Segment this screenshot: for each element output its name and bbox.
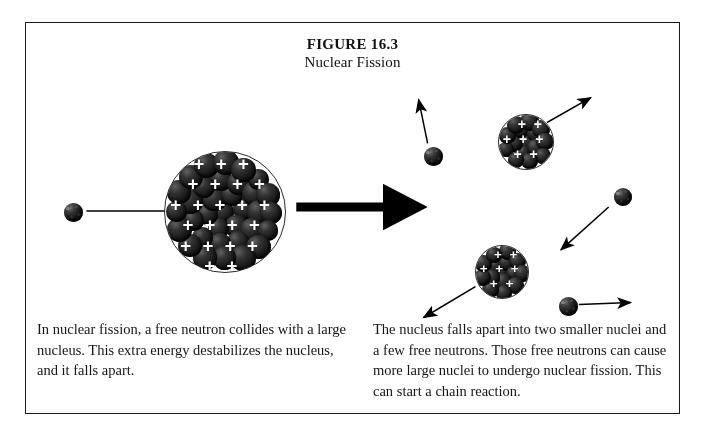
nucleon — [225, 215, 248, 238]
nucleon — [514, 265, 529, 282]
nucleon — [513, 122, 529, 138]
free-neutron-bottom-right — [559, 297, 578, 316]
proton-plus-mark: + — [532, 132, 546, 146]
lower-nucleus-motion-arrow — [424, 287, 476, 318]
figure-number: FIGURE 16.3 — [26, 35, 679, 53]
nucleon — [246, 235, 270, 259]
proton-plus-mark: + — [492, 262, 506, 276]
proton-plus-mark: + — [500, 132, 514, 146]
proton-plus-mark: + — [223, 257, 242, 273]
nucleon — [231, 158, 256, 183]
nucleon — [233, 198, 255, 220]
nucleon — [527, 139, 544, 156]
proton-plus-mark: + — [515, 117, 529, 131]
nucleon — [167, 180, 190, 203]
figure-title-block: FIGURE 16.3 Nuclear Fission — [26, 35, 679, 72]
nucleon — [506, 135, 523, 152]
nucleon — [506, 266, 521, 281]
nucleon — [258, 220, 279, 241]
nucleon — [486, 247, 502, 263]
nucleon — [210, 168, 233, 191]
proton-plus-mark: + — [250, 175, 269, 194]
reactant-neutron — [64, 203, 83, 222]
nucleon — [221, 184, 243, 206]
nucleon — [482, 281, 499, 298]
nucleon — [527, 125, 544, 142]
nucleon — [202, 187, 227, 212]
nucleon — [248, 169, 269, 190]
nucleon — [197, 204, 218, 225]
nucleon — [183, 210, 204, 231]
nucleon — [227, 172, 250, 195]
proton-plus-mark: + — [212, 155, 231, 174]
nucleon — [194, 153, 219, 178]
proton-plus-mark: + — [190, 155, 209, 174]
proton-plus-mark: + — [510, 147, 524, 161]
nucleon — [536, 133, 553, 150]
proton-plus-mark: + — [221, 237, 240, 256]
bottom-neutron-motion-arrow — [579, 303, 631, 305]
nucleon — [247, 200, 271, 224]
top-neutron-motion-arrow — [419, 100, 428, 144]
large-nucleus: ++++++++++++++++++++++ — [164, 151, 286, 273]
nucleon — [193, 176, 215, 198]
proton-plus-mark: + — [255, 196, 274, 215]
proton-plus-mark: + — [527, 147, 541, 161]
proton-plus-mark: + — [189, 196, 208, 215]
nucleon — [516, 145, 531, 160]
nucleon — [535, 148, 551, 164]
proton-plus-mark: + — [477, 262, 491, 276]
proton-plus-mark: + — [176, 237, 195, 256]
nucleon — [498, 254, 515, 271]
proton-plus-mark: + — [166, 196, 185, 215]
nucleon — [484, 269, 500, 285]
nucleon — [240, 218, 264, 242]
proton-plus-mark: + — [184, 175, 203, 194]
proton-plus-mark: + — [491, 248, 505, 262]
nucleon — [209, 233, 231, 255]
proton-plus-mark: + — [516, 132, 530, 146]
nucleon — [499, 127, 517, 145]
proton-plus-mark: + — [507, 248, 521, 262]
nucleon — [208, 218, 229, 239]
proton-plus-mark: + — [243, 237, 262, 256]
proton-plus-mark: + — [206, 175, 225, 194]
nucleon — [520, 114, 538, 131]
proton-plus-mark: + — [503, 277, 517, 291]
proton-plus-mark: + — [201, 216, 220, 235]
nucleon — [227, 231, 249, 253]
nucleon — [521, 153, 537, 169]
proton-plus-mark: + — [233, 196, 252, 215]
nucleon — [496, 285, 512, 299]
proton-plus-mark: + — [179, 216, 198, 235]
caption-left: In nuclear fission, a free neutron colli… — [37, 319, 355, 381]
nucleon — [508, 152, 524, 168]
figure-frame: FIGURE 16.3 Nuclear Fission — [25, 22, 680, 414]
proton-plus-mark: + — [199, 237, 218, 256]
right-neutron-motion-arrow — [561, 207, 609, 250]
nucleon — [213, 246, 236, 269]
nucleon — [507, 277, 524, 294]
nucleon — [517, 133, 535, 151]
proton-plus-mark: + — [487, 277, 501, 291]
nucleon — [213, 151, 239, 175]
free-neutron-top — [424, 147, 443, 166]
nucleon — [179, 165, 203, 189]
nucleon — [495, 273, 512, 290]
nucleon — [166, 201, 187, 222]
nucleon — [475, 269, 491, 287]
nucleon — [532, 120, 549, 137]
nucleon — [499, 245, 515, 260]
nucleon — [178, 234, 202, 258]
product-nucleus-lower: +++++++ — [475, 245, 529, 299]
proton-plus-mark: + — [531, 117, 545, 131]
nucleon — [507, 116, 525, 134]
free-neutron-right — [614, 188, 632, 206]
nucleon — [488, 258, 503, 273]
figure-subtitle: Nuclear Fission — [26, 53, 679, 71]
proton-plus-mark: + — [508, 262, 522, 276]
nucleon — [498, 142, 513, 157]
nucleon — [212, 201, 233, 222]
nucleon — [230, 245, 255, 270]
nucleon — [192, 227, 213, 248]
